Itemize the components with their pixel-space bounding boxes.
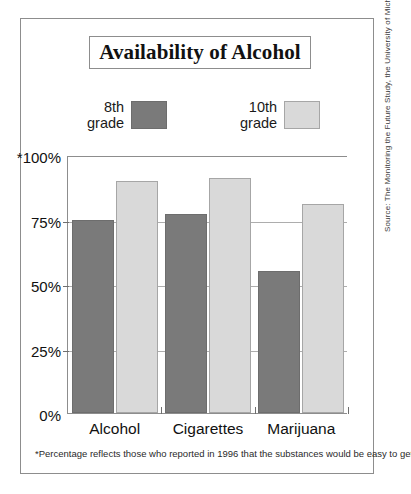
y-axis-label: *100% — [17, 149, 61, 166]
chart-title-box: Availability of Alcohol — [89, 36, 311, 69]
plot-area: 0%25%50%75%*100% AlcoholCigarettesMariju… — [67, 156, 347, 414]
page-title: Availability of Alcohol — [99, 40, 300, 65]
y-axis-tick — [63, 222, 69, 223]
x-axis-tick — [255, 407, 256, 414]
bar-cigarettes-10th-grade — [209, 178, 251, 413]
y-axis-label: 25% — [31, 342, 61, 359]
legend-item-10th-grade: 10th grade — [240, 99, 320, 131]
y-axis-tick — [63, 351, 69, 352]
bar-marijuana-10th-grade — [302, 204, 344, 413]
legend-label-10th-grade: 10th grade — [240, 99, 277, 131]
legend-swatch-10th-grade — [284, 101, 320, 129]
legend-label-8th-grade: 8th grade — [87, 99, 124, 131]
y-axis-label: 50% — [31, 278, 61, 295]
x-axis-label-cigarettes: Cigarettes — [173, 420, 244, 438]
legend-swatch-8th-grade — [131, 101, 167, 129]
legend-item-8th-grade: 8th grade — [87, 99, 167, 131]
bar-cigarettes-8th-grade — [165, 214, 207, 413]
x-axis-label-marijuana: Marijuana — [267, 420, 335, 438]
y-axis-tick — [63, 286, 69, 287]
source-credit: Source: The Monitoring the Future Study,… — [383, 0, 392, 232]
bar-marijuana-8th-grade — [258, 271, 300, 413]
x-axis-tick — [161, 407, 162, 414]
chart-legend: 8th grade 10th grade — [21, 99, 375, 137]
figure-frame: Availability of Alcohol 8th grade 10th g… — [20, 18, 374, 474]
bar-alcohol-10th-grade — [116, 181, 158, 413]
bar-alcohol-8th-grade — [72, 220, 114, 414]
x-axis-label-alcohol: Alcohol — [89, 420, 140, 438]
y-axis-label: 0% — [39, 407, 61, 424]
y-axis-label: 75% — [31, 213, 61, 230]
x-axis-tick — [348, 407, 349, 414]
chart-footnote: *Percentage reflects those who reported … — [35, 448, 365, 459]
